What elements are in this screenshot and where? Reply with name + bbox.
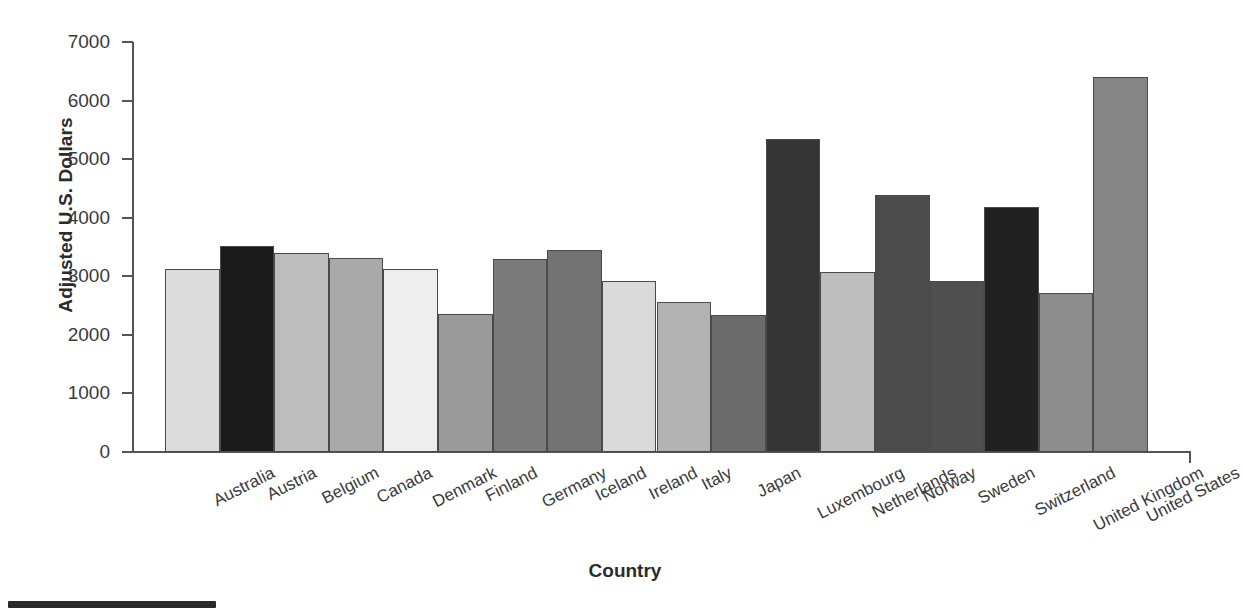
bar: [602, 281, 657, 452]
bar: [329, 258, 384, 452]
y-tick-label: 3000: [48, 265, 110, 287]
bar: [438, 314, 493, 452]
y-tick-label: 2000: [48, 324, 110, 346]
bar: [165, 269, 220, 452]
bar: [220, 246, 275, 452]
x-tick-label: Sweden: [974, 463, 1038, 509]
bar: [1093, 77, 1148, 452]
x-axis-title: Country: [0, 560, 1216, 582]
page-edge-artifact: [8, 601, 216, 608]
bar: [493, 259, 548, 452]
y-tick-label: 0: [48, 441, 110, 463]
x-tick-label: Canada: [374, 463, 436, 508]
x-tick-label: Ireland: [646, 463, 701, 504]
y-tick-label: 4000: [48, 207, 110, 229]
y-tick-label: 7000: [48, 31, 110, 53]
x-tick-label: Japan: [754, 463, 804, 502]
bar: [766, 139, 821, 452]
bar: [930, 281, 985, 452]
bar: [547, 250, 602, 452]
x-axis-right-cap: [1189, 451, 1191, 463]
bar: [657, 302, 712, 452]
x-axis-tick-labels: AustraliaAustriaBelgiumCanadaDenmarkFinl…: [165, 455, 1148, 555]
y-axis-line: [132, 42, 134, 453]
y-tick-label: 6000: [48, 90, 110, 112]
bar: [984, 207, 1039, 452]
x-axis-title-text: Country: [589, 560, 662, 581]
y-tick-label: 1000: [48, 382, 110, 404]
bar: [711, 315, 766, 452]
bar: [1039, 293, 1094, 452]
bar: [875, 195, 930, 452]
bar: [383, 269, 438, 452]
y-tick-label: 5000: [48, 148, 110, 170]
bar: [274, 253, 329, 452]
bar: [820, 272, 875, 452]
plot-area: [165, 42, 1148, 452]
x-tick-label: Italy: [698, 463, 735, 495]
x-tick-label: Belgium: [319, 463, 383, 509]
